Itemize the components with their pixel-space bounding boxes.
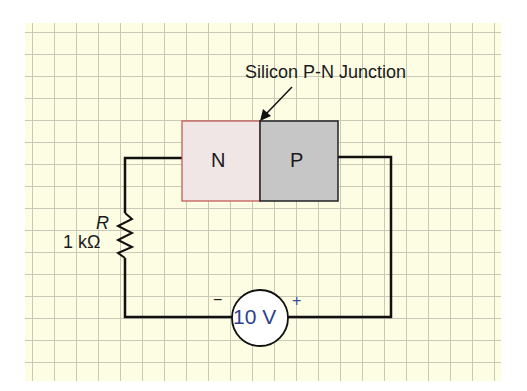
circuit-diagram xyxy=(0,0,527,391)
wire-left xyxy=(125,158,182,213)
n-region-label: N xyxy=(211,149,225,172)
resistor-icon xyxy=(118,213,132,258)
voltage-value-label: 10 V xyxy=(233,305,276,329)
resistor-value-label: 1 kΩ xyxy=(63,232,100,253)
positive-terminal-label: + xyxy=(292,292,301,310)
resistor-symbol-label: R xyxy=(96,213,109,234)
junction-arrow-line xyxy=(266,87,292,114)
p-region-label: P xyxy=(290,149,303,172)
junction-label: Silicon P-N Junction xyxy=(245,62,406,83)
negative-terminal-label: − xyxy=(213,291,222,309)
